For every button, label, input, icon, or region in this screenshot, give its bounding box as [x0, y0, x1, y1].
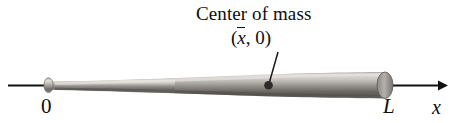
center-of-mass-dot: [264, 81, 273, 90]
bat-knob: [44, 78, 53, 93]
center-of-mass-title: Center of mass: [196, 4, 311, 23]
coord-x-bar-variable: x: [237, 28, 245, 47]
axis-arrowhead-icon: [438, 81, 448, 91]
center-of-mass-coordinate: (x, 0): [231, 28, 271, 47]
axis-origin-label: 0: [41, 96, 52, 117]
axis-name-label: x: [432, 97, 441, 117]
axis-length-label: L: [383, 96, 395, 117]
coord-rest: , 0): [246, 27, 271, 48]
baseball-bat: [44, 72, 393, 98]
